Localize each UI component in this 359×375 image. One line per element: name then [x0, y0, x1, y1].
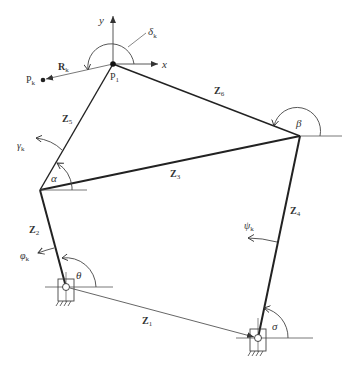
- svg-text:Rk: Rk: [58, 61, 69, 74]
- svg-text:ψk: ψk: [244, 220, 254, 233]
- label-Z6: Z6: [214, 85, 225, 98]
- svg-text:δk: δk: [148, 25, 157, 40]
- label-Z5: Z5: [62, 113, 73, 126]
- phi-angle: φk: [20, 248, 54, 263]
- beta-angle: β: [274, 107, 342, 136]
- gamma-angle: γk: [17, 138, 62, 153]
- link-Z2: [40, 190, 66, 287]
- point-P1: [110, 61, 116, 67]
- x-axis-label: x: [161, 58, 167, 70]
- link-Z3: [40, 136, 300, 190]
- label-Z4: Z4: [290, 205, 301, 218]
- coordinate-axes: y x: [98, 14, 167, 70]
- label-P1: P1: [110, 71, 120, 84]
- vector-Rk: Rk Pk: [26, 61, 113, 87]
- svg-text:γk: γk: [17, 140, 25, 153]
- svg-text:φk: φk: [20, 250, 30, 263]
- ground-pivot-2: σ: [236, 308, 313, 356]
- point-Pk: [41, 78, 46, 83]
- ground-pivot-1: θ: [45, 258, 113, 306]
- sigma-symbol: σ: [272, 320, 278, 332]
- theta-symbol: θ: [76, 269, 82, 281]
- link-Z6: [113, 64, 300, 136]
- linkage-diagram: y x δk Rk Pk Z6 Z5 P1 β: [0, 0, 359, 375]
- y-axis-label: y: [98, 14, 104, 26]
- label-Z2: Z2: [29, 224, 40, 237]
- alpha-symbol: α: [51, 172, 57, 184]
- label-Z3: Z3: [170, 168, 181, 181]
- label-Z1: Z1: [142, 315, 153, 328]
- link-Z1: [70, 288, 254, 337]
- delta-angle: δk: [88, 25, 157, 70]
- beta-symbol: β: [295, 117, 302, 129]
- label-Pk: Pk: [26, 74, 36, 87]
- psi-angle: ψk: [244, 220, 277, 242]
